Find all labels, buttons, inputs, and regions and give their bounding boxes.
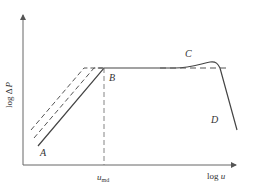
- point-label-b: B: [109, 72, 115, 83]
- y-axis-label-symbol: Δ: [4, 88, 14, 94]
- dashed-slope-line-inner: [34, 68, 104, 138]
- diagram-canvas: A B C D umd log u log ΔP: [0, 0, 253, 191]
- main-curve: [38, 62, 237, 146]
- x-axis-label-prefix: log: [207, 171, 219, 181]
- dashed-slope-lines: [31, 68, 104, 138]
- x-axis-label-var: u: [221, 171, 226, 181]
- x-marker-label: umd: [97, 172, 109, 183]
- y-axis-label: log ΔP: [4, 81, 14, 108]
- point-label-d: D: [210, 114, 219, 125]
- y-axis-label-var: P: [4, 81, 14, 88]
- x-marker-subscript: md: [102, 177, 110, 183]
- y-axis-label-prefix: log: [4, 96, 14, 108]
- x-axis-label: log u: [207, 171, 226, 181]
- point-label-c: C: [185, 48, 192, 59]
- point-label-a: A: [39, 147, 47, 158]
- axes: [23, 15, 236, 165]
